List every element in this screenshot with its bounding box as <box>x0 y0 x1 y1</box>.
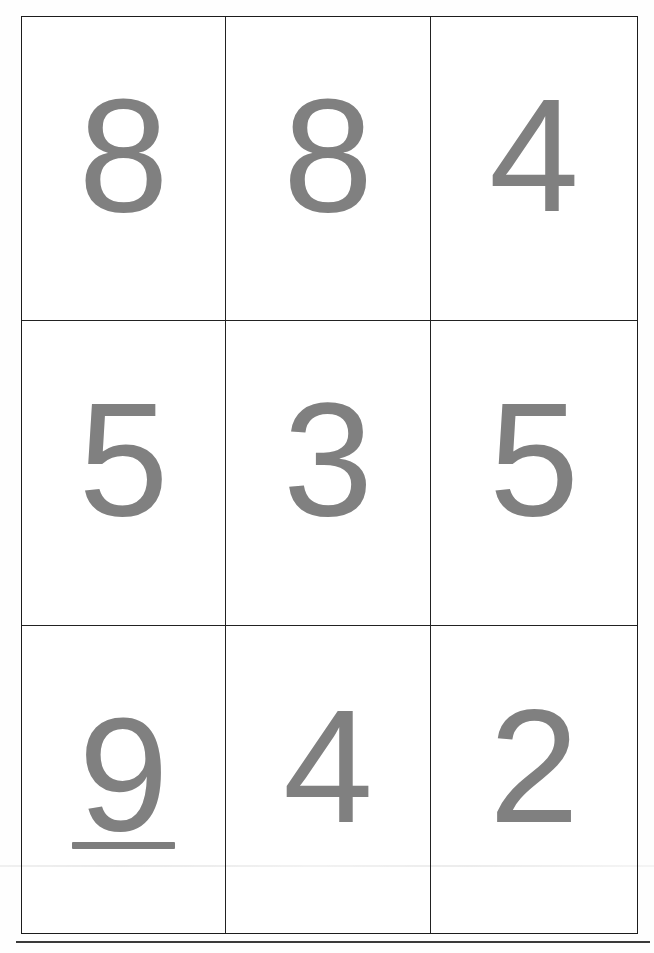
cell-digit-r2c1: 5 <box>78 378 168 540</box>
grid-cell-r1c2[interactable]: 8 <box>226 17 431 321</box>
cell-digit-r1c3: 4 <box>489 74 579 236</box>
grid-cell-r3c1[interactable]: 9 <box>22 626 226 933</box>
digit-grid-table: 8 8 4 5 3 5 9 4 2 <box>21 16 638 934</box>
grid-cell-r2c3[interactable]: 5 <box>431 321 637 626</box>
cell-digit-r2c2: 3 <box>283 378 373 540</box>
scanned-page: 8 8 4 5 3 5 9 4 2 <box>0 0 654 953</box>
grid-cell-r1c3[interactable]: 4 <box>431 17 637 321</box>
cell-digit-r1c2: 8 <box>283 74 373 236</box>
grid-cell-r1c1[interactable]: 8 <box>22 17 226 321</box>
grid-cell-r2c2[interactable]: 3 <box>226 321 431 626</box>
bottom-horizontal-rule <box>16 941 650 943</box>
cell-digit-r1c1: 8 <box>78 74 168 236</box>
grid-cell-r3c3[interactable]: 2 <box>431 626 637 933</box>
grid-cell-r3c2[interactable]: 4 <box>226 626 431 933</box>
cell-digit-r3c3: 2 <box>489 685 579 847</box>
cell-digit-r3c1-underlined: 9 <box>78 693 168 855</box>
cell-digit-r2c3: 5 <box>489 378 579 540</box>
grid-cell-r2c1[interactable]: 5 <box>22 321 226 626</box>
cell-digit-r3c2: 4 <box>283 685 373 847</box>
